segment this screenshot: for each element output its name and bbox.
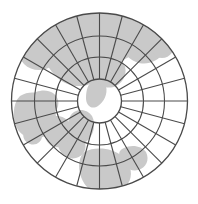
landmass-china-east-coast [92, 54, 125, 87]
polar-map-figure [0, 0, 198, 204]
polar-map-svg [0, 0, 198, 204]
